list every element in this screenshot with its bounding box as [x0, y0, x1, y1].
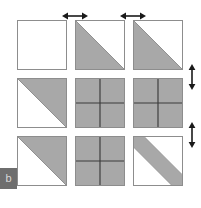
dimension-arrow-right-1	[186, 64, 198, 90]
dimension-arrow-right-2	[186, 122, 198, 148]
tile-r3-c1	[17, 136, 67, 186]
tile-r2-c3	[133, 78, 183, 128]
double-arrow-horizontal-icon	[120, 10, 146, 22]
pattern-triangle-lower-left-icon	[76, 21, 124, 69]
tile-r2-c1	[17, 78, 67, 128]
figure-container: b	[0, 0, 201, 208]
pattern-triangle-upper-right-icon	[18, 137, 66, 185]
double-arrow-vertical-icon	[186, 64, 198, 90]
panel-label-badge: b	[0, 168, 17, 189]
pattern-diagonal-band-icon	[134, 137, 182, 185]
tile-r1-c1	[17, 20, 67, 70]
pattern-empty-icon	[18, 21, 66, 69]
tile-r3-c3	[133, 136, 183, 186]
pattern-full-quartered-icon	[76, 137, 124, 185]
pattern-full-quartered-icon	[134, 79, 182, 127]
double-arrow-horizontal-icon	[62, 10, 88, 22]
tile-r3-c2	[75, 136, 125, 186]
dimension-arrow-top-1	[62, 10, 88, 22]
tile-r2-c2	[75, 78, 125, 128]
dimension-arrow-top-2	[120, 10, 146, 22]
tile-r1-c2	[75, 20, 125, 70]
tile-r1-c3	[133, 20, 183, 70]
pattern-triangle-lower-left-icon	[134, 21, 182, 69]
pattern-full-quartered-icon	[76, 79, 124, 127]
tile-grid	[17, 20, 184, 187]
pattern-triangle-upper-right-icon	[18, 79, 66, 127]
double-arrow-vertical-icon	[186, 122, 198, 148]
